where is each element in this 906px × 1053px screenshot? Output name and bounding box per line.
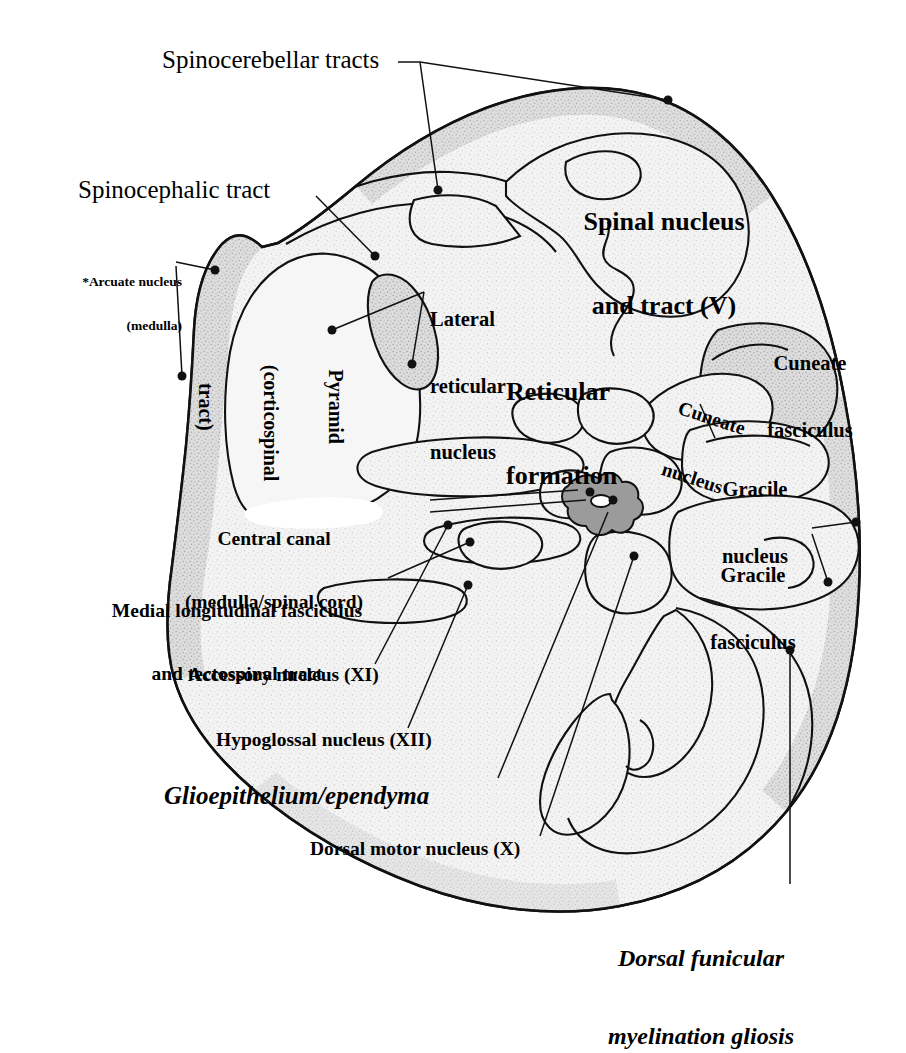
leader-dot [824,578,833,587]
label-dorsal-funicular-line1: Dorsal funicular [578,946,824,972]
label-glioepithelium-ependyma: Glioepithelium/ependyma [164,782,429,809]
label-pyramid-corticospinal-tract: Pyramid (corticospinal tract) [151,365,389,449]
label-accessory-nucleus-xi: Accessory nucleus (XI) [188,664,379,685]
leader-dot [630,552,639,561]
label-reticular-formation-line1: Reticular [506,378,617,406]
label-arcuate-nucleus-line2: (medulla) [50,319,182,334]
label-spinocerebellar-tracts: Spinocerebellar tracts [162,46,379,73]
leader-dot [408,360,417,369]
label-lateral-reticular-line2: reticular [430,375,506,397]
label-cuneate-fasciculus-line1: Cuneate [750,352,870,374]
label-spinocephalic-tract: Spinocephalic tract [78,176,270,203]
label-dorsal-funicular-line2: myelination gliosis [578,1024,824,1050]
label-pyramid-line1: Pyramid [324,365,346,449]
label-spinal-nucleus-line2: and tract (V) [564,292,764,320]
label-central-canal-line1: Central canal [118,528,430,549]
label-mlf-line1: Medial longitudinal fasciculus [84,600,390,621]
label-medial-longitudinal-fasciculus: Medial longitudinal fasciculus and tecto… [84,558,390,726]
label-gracile-fasciculus-line2: fasciculus [692,631,814,653]
label-hypoglossal-nucleus-xii: Hypoglossal nucleus (XII) [216,729,432,750]
leader-dot [211,266,220,275]
leader-dot [466,538,475,547]
label-arcuate-nucleus-line1: *Arcuate nucleus [50,275,182,290]
label-dorsal-motor-nucleus-x: Dorsal motor nucleus (X) [310,838,520,859]
label-lateral-reticular-nucleus: Lateral reticular nucleus [430,264,506,507]
leader-dot [852,518,861,527]
label-lateral-reticular-line3: nucleus [430,441,506,463]
label-reticular-formation-line2: formation [506,462,617,490]
label-pyramid-line3: tract) [194,365,216,449]
label-gracile-fasciculus: Gracile fasciculus [692,520,814,697]
leader-dot [444,521,453,530]
label-gracile-nucleus-line1: Gracile [700,478,810,500]
leader-dot [464,581,473,590]
label-gracile-fasciculus-line1: Gracile [692,564,814,586]
leader-dot [664,96,673,105]
leader-dot [371,252,380,261]
leader-dot [434,186,443,195]
label-dorsal-funicular-myelination-gliosis: Dorsal funicular myelination gliosis [578,894,824,1053]
leader-dot [328,326,337,335]
label-arcuate-nucleus: *Arcuate nucleus (medulla) [50,246,182,363]
label-lateral-reticular-line1: Lateral [430,308,506,330]
label-spinal-nucleus-line1: Spinal nucleus [564,208,764,236]
label-pyramid-line2: (corticospinal [259,365,281,449]
label-spinal-nucleus-and-tract-v: Spinal nucleus and tract (V) [564,152,764,377]
